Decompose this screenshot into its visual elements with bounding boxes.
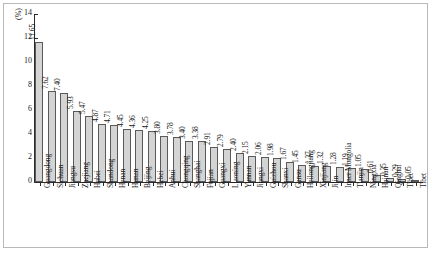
bar-value-label: 4.36 bbox=[128, 115, 137, 128]
x-axis-tick-label: Liaoning bbox=[231, 162, 240, 188]
x-axis-tick-label: Fujian bbox=[206, 169, 215, 188]
bar-value-label: 1.67 bbox=[279, 147, 288, 160]
bar-value-label: 2.06 bbox=[254, 143, 263, 156]
y-axis-tick-label: 2 bbox=[28, 152, 32, 161]
x-axis-tick-label: Qinghai bbox=[394, 165, 403, 188]
y-axis-tick-label: 14 bbox=[24, 8, 32, 17]
x-axis-tick-mark bbox=[65, 182, 66, 186]
x-axis-tick-label: Yunnan bbox=[244, 166, 253, 188]
x-axis-tick-mark bbox=[228, 182, 229, 186]
bar-value-label: 1.98 bbox=[266, 144, 275, 157]
x-axis-tick-label: Hunan bbox=[131, 169, 140, 189]
x-axis-tick-label: Jiangxi bbox=[256, 167, 265, 188]
x-axis-tick-mark bbox=[165, 182, 166, 186]
y-axis-tick-label: 8 bbox=[28, 80, 32, 89]
x-axis-tick-mark bbox=[90, 182, 91, 186]
x-axis-tick-label: Hebei bbox=[156, 171, 165, 188]
x-axis-tick-label: Sichuan bbox=[56, 165, 65, 188]
bar-value-label: 7.40 bbox=[53, 78, 62, 91]
x-axis-tick-mark bbox=[391, 182, 392, 186]
x-axis-tick-mark bbox=[403, 182, 404, 186]
bar-value-label: 2.15 bbox=[241, 141, 250, 154]
x-axis-tick-mark bbox=[278, 182, 279, 186]
x-axis-tick-label: Ningxia bbox=[369, 165, 378, 188]
x-axis-tick-label: Jiangsu bbox=[68, 166, 77, 188]
y-axis-tick-label: 6 bbox=[28, 104, 32, 113]
x-axis-tick-mark bbox=[341, 182, 342, 186]
bar-value-label: 2.79 bbox=[216, 134, 225, 147]
x-axis-tick-mark bbox=[140, 182, 141, 186]
bar-value-label: 3.38 bbox=[191, 127, 200, 140]
x-axis-tick-mark bbox=[328, 182, 329, 186]
x-axis-tick-label: Guangxi bbox=[218, 163, 227, 188]
x-axis-tick-mark bbox=[153, 182, 154, 186]
x-axis-tick-mark bbox=[203, 182, 204, 186]
x-axis-tick-label: Gansu bbox=[294, 169, 303, 188]
x-axis-tick-label: Tibet bbox=[406, 173, 415, 188]
x-axis-tick-label: Tibet bbox=[419, 173, 428, 188]
plot-area: 11.657.627.405.935.474.874.714.454.364.2… bbox=[34, 14, 422, 182]
x-axis-tick-mark bbox=[378, 182, 379, 186]
x-axis-tick-label: Tianjin bbox=[356, 167, 365, 188]
bar-value-label: 5.93 bbox=[66, 96, 75, 109]
x-axis-tick-mark bbox=[291, 182, 292, 186]
x-axis-tick-label: Anhui bbox=[168, 170, 177, 188]
x-axis-tick-mark bbox=[241, 182, 242, 186]
x-axis-tick-label: Beijing bbox=[143, 167, 152, 188]
x-axis-tick-mark bbox=[416, 182, 417, 186]
x-axis-tick-label: Shanxi bbox=[281, 168, 290, 188]
y-axis-tick-mark bbox=[34, 182, 38, 183]
y-axis-tick-label: 10 bbox=[24, 56, 32, 65]
bar-value-label: 7.62 bbox=[41, 76, 50, 89]
bar-value-label: 1.28 bbox=[329, 152, 338, 165]
bar-value-label: 3.78 bbox=[166, 122, 175, 135]
x-axis-tick-mark bbox=[253, 182, 254, 186]
y-axis-tick-label: 0 bbox=[28, 176, 32, 185]
bar-value-label: 11.65 bbox=[28, 24, 37, 40]
bar-value-label: 5.47 bbox=[78, 102, 87, 115]
x-axis-tick-label: Chongqing bbox=[181, 156, 190, 188]
x-axis-tick-mark bbox=[53, 182, 54, 186]
x-axis-tick-mark bbox=[215, 182, 216, 186]
x-axis-tick-mark bbox=[190, 182, 191, 186]
x-axis-tick-mark bbox=[40, 182, 41, 186]
x-axis-tick-label: Inner Mongolia bbox=[344, 143, 353, 188]
x-axis-tick-mark bbox=[366, 182, 367, 186]
x-axis-tick-label: Shandong bbox=[106, 159, 115, 188]
x-axis-tick-mark bbox=[128, 182, 129, 186]
bar-value-label: 3.80 bbox=[153, 122, 162, 135]
x-axis-tick-label: Zhejiang bbox=[81, 162, 90, 188]
x-axis-tick-label: Shanghai bbox=[193, 161, 202, 188]
bar-value-label: 2.91 bbox=[203, 132, 212, 145]
x-axis-tick-mark bbox=[103, 182, 104, 186]
bar-value-label: 4.25 bbox=[141, 116, 150, 129]
x-axis-tick-label: Hainan bbox=[381, 167, 390, 188]
x-axis-tick-mark bbox=[316, 182, 317, 186]
x-axis-tick-label: Hubei bbox=[93, 170, 102, 188]
x-axis-tick-label: Henan bbox=[118, 169, 127, 188]
x-axis-tick-label: Xinjiang bbox=[319, 163, 328, 188]
bar-value-label: 2.40 bbox=[229, 138, 238, 151]
x-axis-tick-mark bbox=[178, 182, 179, 186]
x-axis-tick-mark bbox=[115, 182, 116, 186]
x-axis-tick-mark bbox=[353, 182, 354, 186]
x-axis-tick-label: Jilin bbox=[331, 176, 340, 188]
x-axis-tick-mark bbox=[266, 182, 267, 186]
x-axis-tick-mark bbox=[78, 182, 79, 186]
bar-value-label: 3.40 bbox=[178, 126, 187, 139]
x-axis-tick-mark bbox=[303, 182, 304, 186]
x-axis-tick-label: Guangdong bbox=[43, 154, 52, 188]
bar-value-label: 4.45 bbox=[116, 114, 125, 127]
bar-value-label: 4.71 bbox=[103, 111, 112, 124]
y-axis-tick-label: 4 bbox=[28, 128, 32, 137]
bar-value-label: 4.87 bbox=[91, 109, 100, 122]
y-axis-unit-label: (%) bbox=[14, 8, 23, 20]
bar-value-label: 1.05 bbox=[354, 155, 363, 168]
x-axis-tick-label: Guizhou bbox=[269, 163, 278, 188]
bar-value-label: 1.45 bbox=[291, 150, 300, 163]
chart-frame: (%) 02468101214 11.657.627.405.935.474.8… bbox=[3, 3, 428, 248]
x-axis-tick-label: Heilongjiang bbox=[306, 150, 315, 188]
